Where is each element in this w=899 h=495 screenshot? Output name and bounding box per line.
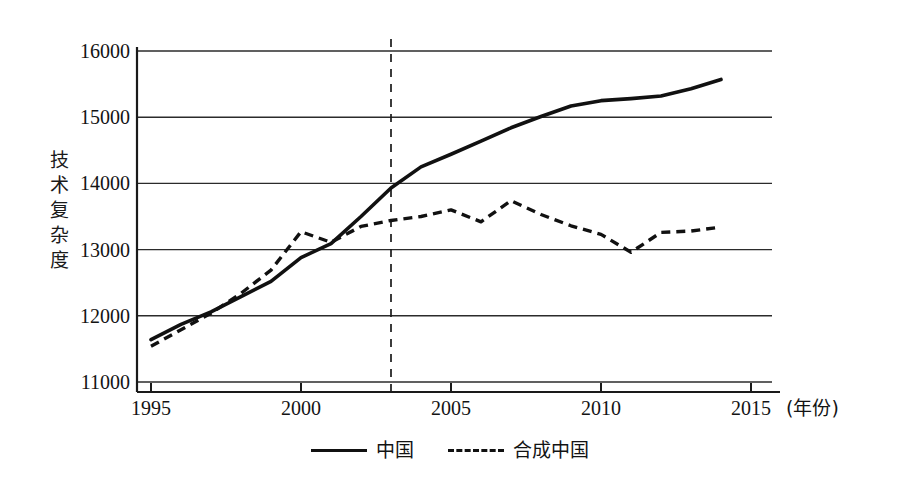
dashed-line-swatch-icon xyxy=(448,449,504,452)
series-line-china xyxy=(151,79,721,339)
legend-item-synthetic-china[interactable]: 合成中国 xyxy=(448,440,589,460)
chart-figure: 技术复杂度 16000 15000 14000 13000 12000 1100… xyxy=(0,0,899,495)
legend-label: 中国 xyxy=(376,440,414,460)
legend-label: 合成中国 xyxy=(513,440,589,460)
plot-area xyxy=(0,0,899,495)
series-line-synthetic-china xyxy=(151,201,721,347)
solid-line-swatch-icon xyxy=(311,449,367,452)
chart-legend: 中国 合成中国 xyxy=(0,440,899,460)
legend-item-china[interactable]: 中国 xyxy=(311,440,414,460)
